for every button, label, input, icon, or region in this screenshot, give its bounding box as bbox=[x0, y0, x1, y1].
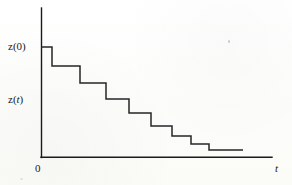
y-axis-label-current: z(t) bbox=[8, 94, 23, 105]
y-label-suffix: ) bbox=[20, 93, 24, 105]
step-function-figure: z(0) z(t) 0 t bbox=[0, 0, 292, 185]
plot-area bbox=[0, 0, 292, 185]
step-function-curve bbox=[41, 47, 243, 150]
y-label-prefix: z( bbox=[8, 93, 17, 105]
x-axis-label: t bbox=[275, 163, 278, 174]
origin-label: 0 bbox=[35, 163, 41, 174]
y-axis-label-initial: z(0) bbox=[8, 41, 26, 52]
